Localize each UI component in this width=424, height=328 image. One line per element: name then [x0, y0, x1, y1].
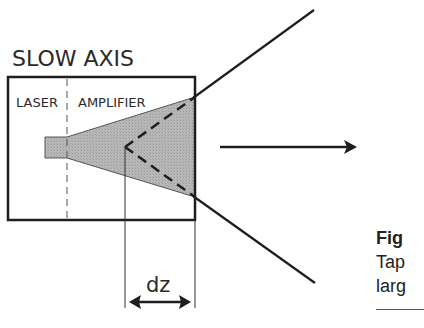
section-label-laser: LASER: [16, 95, 58, 110]
output-ray-lower: [193, 196, 315, 283]
figure-caption-line-3: larg: [376, 276, 406, 296]
figure-caption-line-2: Tap: [376, 252, 405, 272]
section-label-amplifier: AMPLIFIER: [78, 95, 146, 110]
diagram-title: SLOW AXIS: [12, 46, 134, 71]
slow-axis-diagram: SLOW AXIS LASER AMPLIFIER dz: [0, 0, 424, 328]
figure-caption-title: Fig: [376, 228, 403, 248]
output-ray-upper: [193, 10, 314, 98]
dimension-label-dz: dz: [146, 273, 170, 297]
caption-rule: [376, 309, 424, 310]
